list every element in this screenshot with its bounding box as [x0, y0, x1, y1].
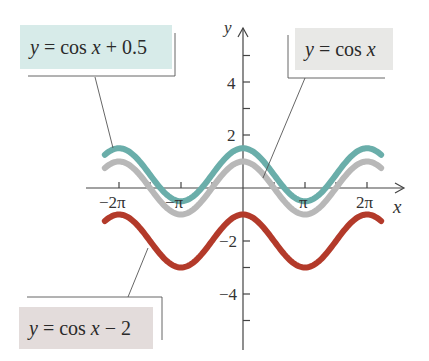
x-axis-label: x — [393, 196, 401, 217]
label-var-y: y — [30, 36, 39, 59]
label-cos-plus-half: y = cos x + 0.5 — [20, 25, 172, 69]
y-tick-2: 2 — [227, 126, 236, 146]
label-cos-minus-two: y = cos x − 2 — [19, 307, 153, 349]
label-tail: + 0.5 — [101, 36, 147, 59]
y-tick-4: 4 — [227, 74, 236, 94]
axis-name-y: y — [224, 18, 232, 38]
y-axis-label: y — [224, 18, 232, 37]
y-tick-neg4: −4 — [219, 285, 237, 305]
label-text: = cos — [39, 36, 92, 59]
label-text: = cos — [314, 38, 367, 61]
label-var-y: y — [29, 317, 38, 340]
leader-cos-plus — [95, 77, 113, 148]
label-text: = cos — [38, 317, 91, 340]
x-tick-pi: π — [299, 193, 308, 213]
label-var-y: y — [305, 38, 314, 61]
leader-cos-minus — [128, 248, 148, 297]
label-var-x: x — [91, 317, 100, 340]
label-var-x: x — [92, 36, 101, 59]
x-tick-neg2pi: −2π — [99, 193, 126, 213]
label-var-x: x — [367, 38, 376, 61]
y-tick-neg2: −2 — [219, 232, 237, 252]
x-tick-negpi: −π — [165, 193, 183, 213]
x-tick-2pi: 2π — [356, 193, 373, 213]
label-cos: y = cos x — [295, 28, 393, 70]
axis-name-x: x — [393, 196, 401, 218]
leader-cos — [263, 78, 305, 178]
label-tail: − 2 — [100, 317, 131, 340]
